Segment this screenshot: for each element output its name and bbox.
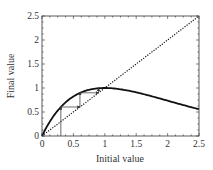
chart: 00.511.522.500.511.522.5 Initial value F… bbox=[0, 0, 213, 170]
x-axis-title: Initial value bbox=[96, 153, 145, 164]
identity-line bbox=[42, 16, 199, 136]
x-tick-label: 0 bbox=[40, 139, 45, 149]
plot-area bbox=[42, 16, 199, 136]
map-curve bbox=[42, 88, 199, 136]
y-axis-title: Final value bbox=[5, 53, 16, 98]
y-tick-label: 0 bbox=[34, 131, 39, 141]
x-tick-label: 2.5 bbox=[193, 139, 205, 149]
x-tick-label: 1.5 bbox=[130, 139, 142, 149]
x-tick-label: 1 bbox=[102, 139, 107, 149]
y-tick-label: 2.5 bbox=[27, 11, 39, 21]
y-tick-label: 0.5 bbox=[27, 107, 39, 117]
x-tick-label: 2 bbox=[165, 139, 170, 149]
y-tick-label: 2 bbox=[34, 35, 39, 45]
y-tick-label: 1 bbox=[34, 83, 39, 93]
x-tick-label: 0.5 bbox=[67, 139, 79, 149]
y-tick-label: 1.5 bbox=[27, 59, 39, 69]
